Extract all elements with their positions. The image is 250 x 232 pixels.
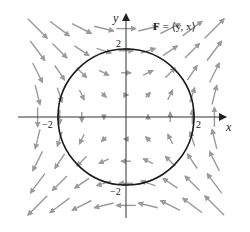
vector-arrow — [30, 174, 45, 194]
vector-arrow — [55, 66, 65, 81]
vector-arrow — [30, 41, 45, 61]
vector-arrow — [52, 43, 67, 58]
vector-arrow — [33, 151, 43, 171]
x-axis-label: x — [225, 120, 232, 134]
vector-arrow — [187, 66, 197, 81]
vector-arrow — [212, 85, 217, 105]
vector-arrow — [94, 203, 114, 208]
tick-label-y-pos: 2 — [116, 38, 121, 49]
vector-arrow — [143, 159, 153, 164]
vector-arrow — [75, 46, 90, 56]
vector-arrow — [207, 41, 222, 61]
vector-arrow — [183, 198, 203, 213]
vector-arrow — [94, 26, 114, 31]
vector-arrow — [28, 196, 48, 216]
vector-arrow — [79, 134, 84, 144]
vector-arrow — [161, 201, 181, 211]
vector-arrow — [28, 19, 48, 39]
vector-arrow — [33, 63, 43, 83]
vector-arrow — [50, 21, 70, 36]
vector-arrow — [207, 174, 222, 194]
vector-arrow — [99, 70, 109, 75]
vector-arrow — [72, 201, 92, 211]
vector-arrow — [143, 70, 153, 75]
vector-arrow — [102, 137, 107, 142]
vector-arrow — [212, 129, 217, 149]
vector-arrow — [35, 85, 40, 105]
tick-label-x-pos: 2 — [196, 119, 201, 130]
vector-field-plot: x y 2 −2 2 −2 F = ⟨y, x⟩ — [0, 0, 250, 232]
vector-arrow — [185, 43, 200, 58]
vector-arrow — [187, 154, 197, 169]
vector-arrow — [35, 129, 40, 149]
vector-arrow — [146, 93, 151, 98]
tick-label-y-neg: −2 — [110, 186, 121, 197]
vector-arrow — [163, 46, 178, 56]
vector-arrow — [168, 90, 173, 100]
vector-arrow — [205, 196, 225, 216]
vector-arrow — [210, 63, 220, 83]
vector-arrow — [146, 137, 151, 142]
vector-arrow — [52, 176, 67, 191]
field-equation-label: F = ⟨y, x⟩ — [153, 20, 196, 32]
y-axis-label: y — [112, 11, 119, 25]
vector-arrow — [55, 154, 65, 169]
vector-arrow — [50, 198, 70, 213]
vector-arrow — [138, 203, 158, 208]
vector-arrow — [72, 24, 92, 34]
vector-arrow — [163, 178, 178, 188]
vector-arrow — [102, 93, 107, 98]
tick-label-x-neg: −2 — [42, 119, 53, 130]
vector-arrow — [168, 134, 173, 144]
vector-arrow — [75, 178, 90, 188]
vector-arrow — [99, 159, 109, 164]
vector-arrow — [79, 90, 84, 100]
vector-arrow — [205, 19, 225, 39]
vector-arrow — [185, 176, 200, 191]
vector-arrow — [210, 151, 220, 171]
